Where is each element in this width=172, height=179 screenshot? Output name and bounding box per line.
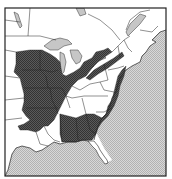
- range-map: [0, 0, 172, 179]
